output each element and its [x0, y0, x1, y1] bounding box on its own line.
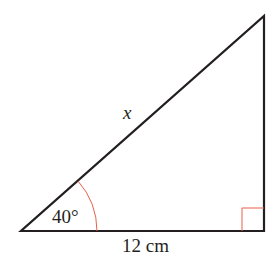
triangle-figure — [0, 0, 279, 267]
triangle — [21, 16, 264, 231]
right-angle-marker — [242, 208, 264, 231]
angle-label: 40° — [52, 206, 79, 228]
angle-arc — [78, 181, 97, 231]
hypotenuse-label: x — [123, 102, 131, 124]
base-label: 12 cm — [122, 235, 169, 257]
